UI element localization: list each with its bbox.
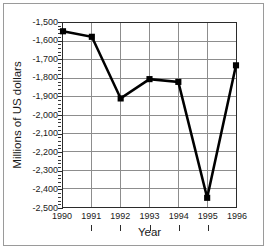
plot-area	[62, 22, 237, 208]
y-axis-minor-tick	[58, 137, 61, 138]
y-axis-minor-tick	[58, 104, 61, 105]
y-axis-minor-tick	[58, 141, 61, 142]
data-series-line	[63, 23, 236, 207]
y-axis-tick-label: -1,500	[14, 18, 58, 27]
y-axis-minor-tick	[58, 48, 61, 49]
y-axis-minor-tick	[58, 82, 61, 83]
y-axis-minor-tick	[58, 122, 61, 123]
chart-figure: Millions of US dollars -1,500-1,600-1,70…	[0, 0, 267, 249]
y-axis-tick-label: -1,800	[14, 73, 58, 82]
y-axis-minor-tick	[58, 74, 61, 75]
y-axis-minor-tick	[58, 197, 61, 198]
y-axis-minor-tick	[58, 178, 61, 179]
y-axis-tick-label: -2,000	[14, 111, 58, 120]
y-axis-minor-tick	[58, 156, 61, 157]
y-axis-minor-tick	[58, 89, 61, 90]
x-axis-title: Year	[62, 226, 237, 238]
y-axis-minor-tick	[58, 186, 61, 187]
y-axis-minor-tick	[58, 204, 61, 205]
y-axis-minor-tick	[58, 119, 61, 120]
y-axis-minor-tick	[58, 67, 61, 68]
y-axis-tick-label: -1,700	[14, 55, 58, 64]
y-axis-tick-label: -2,200	[14, 148, 58, 157]
y-axis-minor-tick	[58, 193, 61, 194]
y-axis-minor-tick	[58, 182, 61, 183]
y-axis-minor-tick	[58, 37, 61, 38]
y-axis-minor-tick	[58, 145, 61, 146]
y-axis-tick-label: -1,600	[14, 36, 58, 45]
y-axis-minor-tick	[58, 100, 61, 101]
y-axis-minor-tick	[58, 44, 61, 45]
y-axis-tick-label: -2,400	[14, 185, 58, 194]
y-axis-minor-tick	[58, 93, 61, 94]
y-axis-minor-tick	[58, 163, 61, 164]
y-axis-minor-tick	[58, 70, 61, 71]
y-axis-minor-tick	[58, 167, 61, 168]
y-axis-tick-label: -1,900	[14, 92, 58, 101]
y-axis-minor-tick	[58, 130, 61, 131]
x-axis-tick-labels: 1990199119921993199419951996	[62, 211, 237, 225]
y-axis-minor-tick	[58, 85, 61, 86]
y-axis-minor-tick	[58, 201, 61, 202]
y-axis-title-wrapper: Millions of US dollars	[0, 0, 1, 1]
y-axis-minor-tick	[58, 55, 61, 56]
y-axis-minor-tick	[58, 108, 61, 109]
y-axis-minor-tick	[58, 148, 61, 149]
y-axis-minor-tick	[58, 175, 61, 176]
y-axis-minor-tick	[58, 52, 61, 53]
y-axis-minor-tick	[58, 126, 61, 127]
y-axis-major-tick	[58, 208, 63, 209]
y-axis-minor-tick	[58, 111, 61, 112]
y-axis-tick-label: -2,300	[14, 166, 58, 175]
y-axis-minor-tick	[58, 26, 61, 27]
y-axis-minor-tick	[58, 160, 61, 161]
y-axis-tick-label: -2,100	[14, 129, 58, 138]
y-axis-minor-tick	[58, 63, 61, 64]
y-axis-tick-labels: -1,500-1,600-1,700-1,800-1,900-2,000-2,1…	[11, 22, 58, 208]
x-axis-tick-label: 1996	[217, 211, 257, 221]
